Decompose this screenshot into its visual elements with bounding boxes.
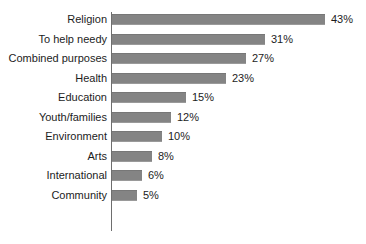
plot-area: Religion43%To help needy31%Combined purp… (0, 0, 366, 244)
bar-value-label: 15% (192, 90, 214, 105)
bar-row: Religion43% (0, 14, 366, 25)
category-label: Health (0, 71, 107, 86)
category-label: Youth/families (0, 110, 107, 125)
category-label: International (0, 168, 107, 183)
bar-row: Environment10% (0, 131, 366, 142)
category-label: Arts (0, 149, 107, 164)
bar-row: Education15% (0, 92, 366, 103)
bar (112, 112, 171, 123)
bar (112, 170, 142, 181)
bar-value-label: 8% (158, 149, 174, 164)
bar-value-label: 10% (168, 129, 190, 144)
bar-value-label: 43% (331, 12, 353, 27)
bar-value-label: 5% (143, 188, 159, 203)
category-label: Environment (0, 129, 107, 144)
bar-row: Youth/families12% (0, 112, 366, 123)
bar-row: Combined purposes27% (0, 53, 366, 64)
bar-row: To help needy31% (0, 34, 366, 45)
category-label: Education (0, 90, 107, 105)
bar-value-label: 27% (252, 51, 274, 66)
bar (112, 14, 325, 25)
category-label: Religion (0, 12, 107, 27)
bar-chart: Religion43%To help needy31%Combined purp… (0, 0, 366, 244)
category-label: Community (0, 188, 107, 203)
category-label: Combined purposes (0, 51, 107, 66)
bar-value-label: 31% (271, 32, 293, 47)
bar-row: Community5% (0, 190, 366, 201)
bar (112, 151, 152, 162)
category-label: To help needy (0, 32, 107, 47)
bar (112, 92, 186, 103)
bar (112, 34, 265, 45)
bar (112, 73, 226, 84)
bar (112, 190, 137, 201)
bar-row: Health23% (0, 73, 366, 84)
bar (112, 53, 246, 64)
bar-value-label: 23% (232, 71, 254, 86)
bar-row: Arts8% (0, 151, 366, 162)
bar-row: International6% (0, 170, 366, 181)
bar (112, 131, 162, 142)
bar-value-label: 6% (148, 168, 164, 183)
bar-value-label: 12% (177, 110, 199, 125)
